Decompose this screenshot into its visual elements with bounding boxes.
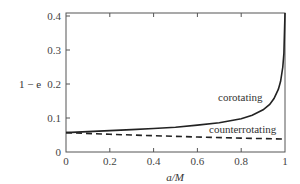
y-tick-label: 0.3 <box>47 44 61 56</box>
y-ticks <box>66 16 70 118</box>
y-tick-label: 0.1 <box>47 112 61 124</box>
x-tick-label: 0.2 <box>103 155 117 167</box>
x-axis-label: a/M <box>166 171 185 183</box>
y-axis-label: 1 − e <box>19 78 41 90</box>
x-tick-label: 0.6 <box>191 155 205 167</box>
y-tick-label: 0.4 <box>47 10 61 22</box>
y-tick-label: 0.2 <box>47 78 61 90</box>
x-tick-label: 1 <box>282 155 288 167</box>
y-tick-label: 0 <box>56 146 62 158</box>
x-tick-label: 0 <box>63 155 69 167</box>
x-tick-label: 0.4 <box>147 155 161 167</box>
chart: 0 0.1 0.2 0.3 0.4 0 0.2 0.4 0.6 0.8 1 a/… <box>0 0 300 184</box>
x-tick-label: 0.8 <box>234 155 248 167</box>
corotating-curve <box>66 13 285 133</box>
corotating-label: corotating <box>218 91 263 103</box>
counterrotating-label: counterrotating <box>209 123 277 135</box>
